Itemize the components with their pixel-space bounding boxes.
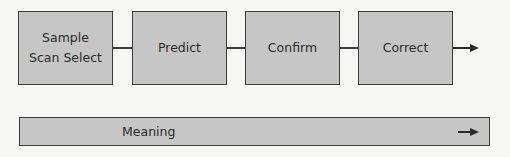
connector-line (227, 47, 245, 49)
step-box-correct: Correct (358, 11, 453, 85)
meaning-bar: Meaning (19, 117, 490, 146)
step-box-predict: Predict (132, 11, 227, 85)
step-box-sample-scan-select: Sample Scan Select (18, 11, 113, 85)
step-label: Predict (158, 38, 201, 58)
meaning-label: Meaning (122, 124, 175, 139)
step-label: Sample Scan Select (29, 28, 102, 68)
connector-line (113, 47, 132, 49)
step-box-confirm: Confirm (245, 11, 340, 85)
step-label: Correct (383, 38, 429, 58)
connector-line (340, 47, 358, 49)
step-label: Confirm (268, 38, 317, 58)
